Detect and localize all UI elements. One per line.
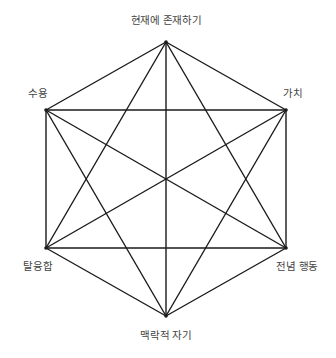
edge-lower-right-bottom [166,248,286,316]
label-defusion: 탈융합 [23,258,52,273]
vertex-lower-right [284,246,288,250]
vertex-bottom [164,314,168,318]
vertex-upper-left [44,108,48,112]
vertex-lower-left [44,246,48,250]
label-present-moment: 현재에 존재하기 [131,12,202,27]
label-committed-action: 전념 행동 [276,258,318,273]
label-self-as-context: 맥락적 자기 [140,327,192,342]
label-values: 가치 [283,85,302,100]
hexaflex-diagram [0,0,336,358]
vertex-top [164,40,168,44]
vertex-upper-right [284,108,288,112]
label-acceptance: 수용 [28,85,47,100]
edge-bottom-lower-left [46,248,166,316]
edge-top-upper-right [166,42,286,110]
edge-top-upper-left [46,42,166,110]
edge-bottom-upper-left [46,110,166,316]
